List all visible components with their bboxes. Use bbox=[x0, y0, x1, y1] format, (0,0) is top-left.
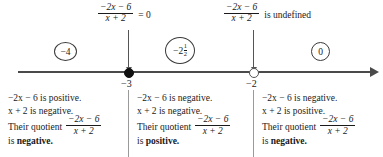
undefined-annotation: −2x − 6 x + 2 is undefined bbox=[222, 4, 311, 25]
undefined-annotation-denominator: x + 2 bbox=[230, 14, 254, 24]
interval-middle-quotient-numerator: −2x − 6 bbox=[195, 115, 230, 125]
test-value-mid-fraction: 1 2 bbox=[184, 43, 187, 58]
interval-left-quotient-denominator: x + 2 bbox=[72, 127, 96, 137]
interval-middle-conclusion-row: is positive. bbox=[137, 135, 249, 148]
zero-annotation-fraction: −2x − 6 x + 2 bbox=[98, 3, 133, 24]
test-value-mid-whole: −2 bbox=[173, 46, 183, 56]
undefined-annotation-tail: is undefined bbox=[264, 10, 311, 20]
interval-right-quotient-label: Their quotient bbox=[262, 121, 316, 134]
interval-middle-quotient-label: Their quotient bbox=[137, 121, 191, 134]
undefined-annotation-numerator: −2x − 6 bbox=[224, 3, 259, 13]
interval-right-conclusion: negative. bbox=[271, 136, 307, 146]
test-value-mid-denominator: 2 bbox=[184, 51, 187, 58]
test-value-mid-mixed-number: −2 1 2 bbox=[173, 43, 187, 58]
interval-left-quotient-numerator: −2x − 6 bbox=[66, 115, 101, 125]
test-value-left-label: −4 bbox=[60, 47, 70, 57]
interval-middle-quotient-denominator: x + 2 bbox=[201, 127, 225, 137]
zero-pointer-arrow-icon bbox=[128, 30, 129, 68]
interval-left-conclusion: negative. bbox=[17, 136, 53, 146]
interval-right-quotient-fraction: −2x − 6 x + 2 bbox=[320, 115, 355, 136]
test-value-left: −4 bbox=[54, 42, 77, 61]
interval-right: −2x − 6 is negative. x + 2 is positive. … bbox=[253, 90, 383, 157]
undefined-pointer-arrow-icon bbox=[253, 30, 254, 68]
zero-annotation-denominator: x + 2 bbox=[104, 14, 128, 24]
interval-right-quotient-numerator: −2x − 6 bbox=[320, 115, 355, 125]
test-value-right: 0 bbox=[311, 42, 330, 61]
sign-analysis-diagram: −2x − 6 x + 2 = 0 −2x − 6 x + 2 is undef… bbox=[0, 0, 383, 157]
interval-middle: −2x − 6 is negative. x + 2 is negative. … bbox=[128, 90, 253, 157]
interval-middle-conclusion: positive. bbox=[146, 136, 180, 146]
number-line-right-arrowhead-icon bbox=[370, 67, 379, 77]
test-value-right-label: 0 bbox=[318, 47, 323, 57]
interval-left-conclusion-row: is negative. bbox=[8, 135, 124, 148]
zero-annotation-numerator: −2x − 6 bbox=[98, 3, 133, 13]
interval-middle-numerator-sign: −2x − 6 is negative. bbox=[137, 92, 249, 105]
interval-left-quotient-row: Their quotient −2x − 6 x + 2 bbox=[8, 117, 124, 137]
interval-left: −2x − 6 is positive. x + 2 is negative. … bbox=[0, 90, 128, 157]
interval-left-conclusion-prefix: is bbox=[8, 136, 17, 146]
interval-middle-conclusion-prefix: is bbox=[137, 136, 146, 146]
test-value-mid: −2 1 2 bbox=[165, 37, 195, 64]
test-value-mid-numerator: 1 bbox=[184, 43, 187, 50]
zero-annotation-tail: = 0 bbox=[138, 10, 150, 20]
undefined-annotation-fraction: −2x − 6 x + 2 bbox=[224, 3, 259, 24]
interval-left-quotient-label: Their quotient bbox=[8, 121, 62, 134]
interval-right-conclusion-row: is negative. bbox=[262, 135, 379, 148]
tick-label-neg3: −3 bbox=[121, 78, 132, 89]
interval-right-conclusion-prefix: is bbox=[262, 136, 271, 146]
interval-right-numerator-sign: −2x − 6 is negative. bbox=[262, 92, 379, 105]
tick-marker-open-circle-icon bbox=[249, 68, 259, 78]
interval-middle-quotient-row: Their quotient −2x − 6 x + 2 bbox=[137, 117, 249, 137]
interval-left-numerator-sign: −2x − 6 is positive. bbox=[8, 92, 124, 105]
interval-reasoning-columns: −2x − 6 is positive. x + 2 is negative. … bbox=[0, 90, 383, 157]
interval-left-quotient-fraction: −2x − 6 x + 2 bbox=[66, 115, 101, 136]
tick-label-neg2: −2 bbox=[246, 78, 257, 89]
number-line-axis bbox=[18, 71, 372, 73]
zero-annotation: −2x − 6 x + 2 = 0 bbox=[96, 4, 151, 25]
interval-right-quotient-denominator: x + 2 bbox=[326, 127, 350, 137]
tick-marker-filled-dot-icon bbox=[124, 68, 134, 78]
interval-middle-quotient-fraction: −2x − 6 x + 2 bbox=[195, 115, 230, 136]
interval-right-quotient-row: Their quotient −2x − 6 x + 2 bbox=[262, 117, 379, 137]
